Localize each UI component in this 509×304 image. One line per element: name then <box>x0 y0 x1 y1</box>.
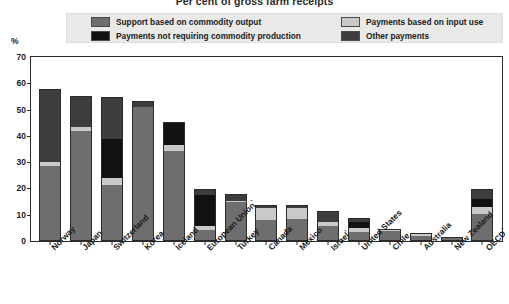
bar-slot <box>35 57 66 241</box>
bar-slot <box>405 57 436 241</box>
bar-segment <box>164 151 184 240</box>
x-label-slot: New Zealand <box>437 243 468 303</box>
y-tick-label: 60 <box>17 78 26 88</box>
legend-item-other-payments[interactable]: Other payments <box>341 29 429 42</box>
legend-item-commodity-output[interactable]: Support based on commodity output <box>91 15 341 28</box>
bar-segment <box>102 139 122 178</box>
x-label-slot: Norway <box>34 243 65 303</box>
legend-swatch-commodity-output <box>91 17 110 27</box>
y-tick-label: 20 <box>17 183 26 193</box>
bar-group <box>31 57 502 241</box>
legend-swatch-not-requiring-production <box>91 31 110 41</box>
bar-norway[interactable] <box>39 89 61 241</box>
x-label-slot: Chile <box>375 243 406 303</box>
y-axis-unit-label: % <box>11 36 19 46</box>
bar-slot <box>313 57 344 241</box>
x-label-slot: Israel² <box>313 243 344 303</box>
bar-segment <box>287 208 307 219</box>
x-label-slot: Canada <box>251 243 282 303</box>
y-tick-label: 50 <box>17 105 26 115</box>
bar-slot <box>97 57 128 241</box>
bar-segment <box>318 212 338 221</box>
x-label-slot: OECD³ <box>468 243 499 303</box>
bar-segment <box>195 195 215 225</box>
bar-segment <box>164 123 184 145</box>
y-tick-label: 40 <box>17 131 26 141</box>
legend-label-not-requiring-production: Payments not requiring commodity product… <box>116 31 301 41</box>
chart-legend: Support based on commodity output Paymen… <box>66 13 503 43</box>
chart-title: Per cent of gross farm receipts <box>0 0 509 7</box>
bar-segment <box>472 199 492 207</box>
bar-slot <box>344 57 375 241</box>
legend-label-other-payments: Other payments <box>366 31 429 41</box>
bar-slot <box>436 57 467 241</box>
bar-slot <box>251 57 282 241</box>
bar-slot <box>66 57 97 241</box>
x-label-slot: Iceland <box>158 243 189 303</box>
bar-segment <box>102 185 122 240</box>
x-label-slot: Switzerland <box>96 243 127 303</box>
legend-item-input-use[interactable]: Payments based on input use <box>341 15 483 28</box>
y-tick-mark <box>27 215 31 216</box>
y-tick-label: 0 <box>21 236 26 246</box>
x-label-slot: Australia <box>406 243 437 303</box>
legend-item-not-requiring-production[interactable]: Payments not requiring commodity product… <box>91 29 341 42</box>
x-label-slot: Turkey <box>220 243 251 303</box>
bar-segment <box>40 166 60 240</box>
y-tick-mark <box>27 162 31 163</box>
x-label-slot: Mexico <box>282 243 313 303</box>
bar-segment <box>102 98 122 139</box>
legend-swatch-input-use <box>341 17 360 27</box>
legend-label-commodity-output: Support based on commodity output <box>116 17 261 27</box>
y-tick-mark <box>27 136 31 137</box>
y-tick-mark <box>27 110 31 111</box>
bar-japan[interactable] <box>70 96 92 241</box>
y-tick-label: 30 <box>17 157 26 167</box>
bar-segment <box>472 190 492 199</box>
legend-row-2: Payments not requiring commodity product… <box>67 29 502 42</box>
y-tick-mark <box>27 188 31 189</box>
y-tick-label: 70 <box>17 52 26 62</box>
bar-iceland[interactable] <box>163 122 185 241</box>
y-tick-label: 10 <box>17 210 26 220</box>
x-label-slot: United States <box>344 243 375 303</box>
legend-row-1: Support based on commodity output Paymen… <box>67 15 502 28</box>
bar-segment <box>71 131 91 240</box>
bar-slot <box>282 57 313 241</box>
x-label-slot: European Union¹ <box>189 243 220 303</box>
bar-slot <box>158 57 189 241</box>
x-label-slot: Korea <box>127 243 158 303</box>
legend-swatch-other-payments <box>341 31 360 41</box>
bar-segment <box>71 97 91 127</box>
plot-area: 010203040506070 <box>30 56 503 242</box>
legend-label-input-use: Payments based on input use <box>366 17 483 27</box>
bar-segment <box>40 90 60 162</box>
y-tick-mark <box>27 83 31 84</box>
bar-segment <box>256 208 276 220</box>
x-label-slot: Japan <box>65 243 96 303</box>
x-axis-labels: NorwayJapanSwitzerlandKoreaIcelandEurope… <box>30 243 503 303</box>
bar-switzerland[interactable] <box>101 97 123 241</box>
bar-slot <box>189 57 220 241</box>
chart-figure: Per cent of gross farm receipts Support … <box>0 0 509 304</box>
